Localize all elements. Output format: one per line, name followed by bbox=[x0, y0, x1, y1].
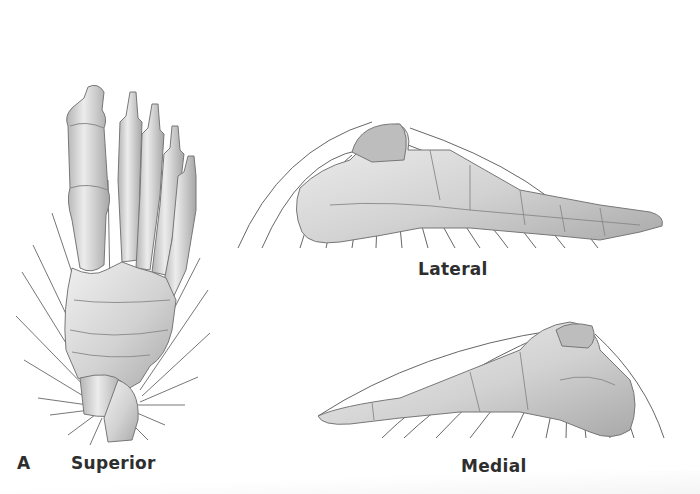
lateral-view-foot bbox=[238, 122, 663, 248]
medial-view-foot bbox=[318, 322, 664, 438]
page-curl-shadow bbox=[0, 470, 700, 494]
lateral-label: Lateral bbox=[418, 259, 488, 279]
foot-diagram-canvas bbox=[0, 0, 700, 494]
superior-view-foot bbox=[16, 85, 210, 445]
figure: A Superior Lateral Medial bbox=[0, 0, 700, 494]
